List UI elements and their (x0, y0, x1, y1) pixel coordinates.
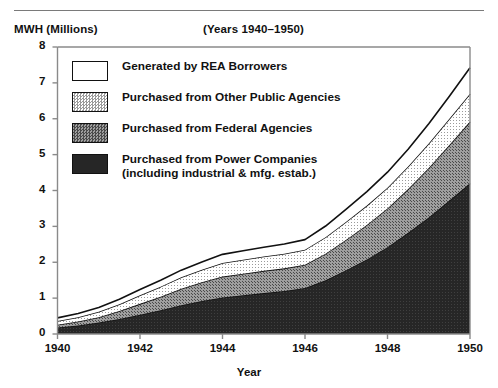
legend-swatch-power-companies (72, 154, 108, 174)
legend-label-line1: Generated by REA Borrowers (122, 59, 287, 73)
legend-swatch-federal-agencies (72, 123, 108, 143)
x-tick-label-1950: 1950 (447, 342, 493, 354)
legend-label: Purchased from Other Public Agencies (122, 91, 341, 105)
y-tick-label-8: 8 (22, 39, 46, 51)
legend-swatch-other-public-agencies (72, 92, 108, 112)
y-tick-label-1: 1 (22, 290, 46, 302)
legend-label: Purchased from Federal Agencies (122, 122, 312, 136)
legend-item: Generated by REA Borrowers (72, 60, 341, 81)
legend-label-line1: Purchased from Federal Agencies (122, 121, 312, 135)
legend-label: Purchased from Power Companies (includin… (122, 153, 317, 180)
legend-item: Purchased from Other Public Agencies (72, 91, 341, 112)
y-tick-label-2: 2 (22, 254, 46, 266)
x-axis-title: Year (0, 366, 498, 378)
legend-item: Purchased from Power Companies (includin… (72, 153, 341, 180)
legend-label-line1: Purchased from Power Companies (122, 152, 317, 166)
y-tick-label-3: 3 (22, 218, 46, 230)
legend-label: Generated by REA Borrowers (122, 60, 287, 74)
x-tick-label-1944: 1944 (200, 342, 246, 354)
x-tick-label-1946: 1946 (282, 342, 328, 354)
legend-item: Purchased from Federal Agencies (72, 122, 341, 143)
x-tick-label-1942: 1942 (117, 342, 163, 354)
y-tick-label-6: 6 (22, 111, 46, 123)
y-tick-label-7: 7 (22, 75, 46, 87)
legend-label-line2: (including industrial & mfg. estab.) (122, 167, 317, 181)
y-tick-label-5: 5 (22, 147, 46, 159)
x-tick-label-1948: 1948 (365, 342, 411, 354)
chart-legend: Generated by REA Borrowers Purchased fro… (72, 60, 341, 190)
y-tick-label-0: 0 (22, 326, 46, 338)
legend-swatch-generated-rea (72, 61, 108, 81)
x-tick-label-1940: 1940 (35, 342, 81, 354)
y-tick-label-4: 4 (22, 183, 46, 195)
chart-figure: MWH (Millions) (Years 1940–1950) (0, 0, 498, 388)
legend-label-line1: Purchased from Other Public Agencies (122, 90, 341, 104)
